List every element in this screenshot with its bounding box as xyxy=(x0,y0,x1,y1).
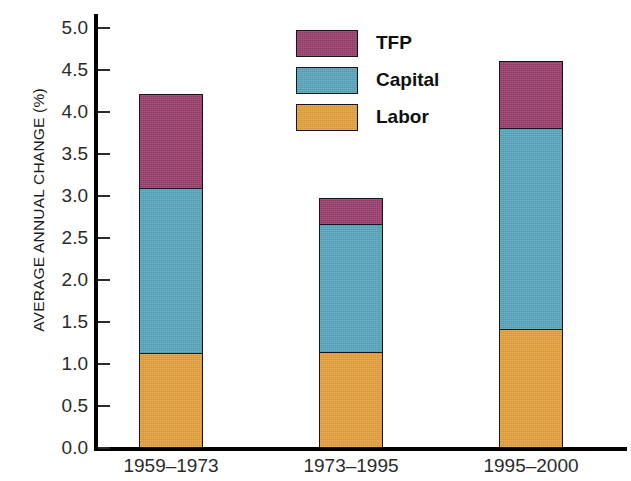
y-axis-tick-label: 0.0 xyxy=(32,438,88,457)
x-axis-category-label: 1995–2000 xyxy=(446,455,616,477)
y-axis-tick-label: 3.5 xyxy=(32,144,88,163)
y-axis-tick-label-wrap: 3.0 xyxy=(22,196,88,197)
bar-segment-capital[interactable] xyxy=(139,188,203,355)
y-axis-tick-label-wrap: 0.0 xyxy=(22,448,88,449)
y-axis-tick-label-wrap: 1.0 xyxy=(22,364,88,365)
bar-stack[interactable] xyxy=(139,94,203,448)
y-axis-tick-label-wrap: 4.0 xyxy=(22,112,88,113)
x-axis-category-label: 1973–1995 xyxy=(266,455,436,477)
legend-swatch-capital xyxy=(296,67,358,94)
y-axis-tick-label: 1.0 xyxy=(32,354,88,373)
y-axis-tick-label-wrap: 3.5 xyxy=(22,154,88,155)
y-axis-tick-label: 3.0 xyxy=(32,186,88,205)
bar-segment-tfp[interactable] xyxy=(319,198,383,226)
bar-segment-labor[interactable] xyxy=(139,353,203,448)
x-axis-category-label: 1959–1973 xyxy=(86,455,256,477)
bar-segment-tfp[interactable] xyxy=(499,61,563,130)
y-axis-tick-label: 0.5 xyxy=(32,396,88,415)
y-axis-tick-label: 2.0 xyxy=(32,270,88,289)
chart-legend: TFPCapitalLabor xyxy=(296,26,439,137)
y-axis-tick-label-wrap: 2.0 xyxy=(22,280,88,281)
y-axis-tick-label: 5.0 xyxy=(32,18,88,37)
legend-item[interactable]: Capital xyxy=(296,63,439,97)
y-axis-tick-label-wrap: 1.5 xyxy=(22,322,88,323)
legend-label: Capital xyxy=(376,69,439,91)
y-axis-tick-label: 4.0 xyxy=(32,102,88,121)
legend-swatch-tfp xyxy=(296,30,358,57)
y-axis-tick-label-wrap: 4.5 xyxy=(22,70,88,71)
bar-segment-labor[interactable] xyxy=(499,329,563,448)
bar-segment-labor[interactable] xyxy=(319,352,383,448)
legend-label: TFP xyxy=(376,32,412,54)
bar-stack[interactable] xyxy=(319,198,383,448)
stacked-bar-chart: AVERAGE ANNUAL CHANGE (%) 5.04.54.03.53.… xyxy=(0,0,631,481)
y-axis-tick-label: 2.5 xyxy=(32,228,88,247)
y-axis-tick-label-wrap: 5.0 xyxy=(22,28,88,29)
legend-swatch-labor xyxy=(296,104,358,131)
legend-item[interactable]: TFP xyxy=(296,26,439,60)
y-axis-tick-label: 4.5 xyxy=(32,60,88,79)
legend-label: Labor xyxy=(376,106,429,128)
bar-segment-capital[interactable] xyxy=(319,224,383,354)
legend-item[interactable]: Labor xyxy=(296,100,439,134)
bar-segment-capital[interactable] xyxy=(499,128,563,330)
y-axis-tick-label-wrap: 2.5 xyxy=(22,238,88,239)
y-axis-tick-label-wrap: 0.5 xyxy=(22,406,88,407)
bar-stack[interactable] xyxy=(499,61,563,448)
bar-segment-tfp[interactable] xyxy=(139,94,203,189)
y-axis-tick-label: 1.5 xyxy=(32,312,88,331)
